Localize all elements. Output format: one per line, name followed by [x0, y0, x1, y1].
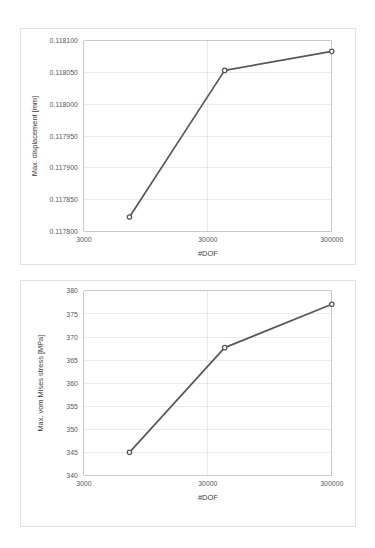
max-von-mises-stress-chart-card: 3403453503553603653703753803000300003000…: [20, 280, 356, 527]
displacement-y-tick-label: 0.117950: [50, 133, 79, 140]
stress-y-tick-label: 360: [66, 380, 78, 387]
displacement-y-tick-label: 0.118050: [50, 69, 79, 76]
stress-y-tick-label: 345: [66, 449, 78, 456]
displacement-x-tick-label: 3000: [76, 236, 92, 243]
stress-y-tick-label: 380: [66, 287, 78, 294]
stress-x-tick-label: 300000: [320, 480, 343, 487]
displacement-data-point: [222, 68, 226, 72]
page-root: 0.1178000.1178500.1179000.1179500.118000…: [0, 0, 375, 548]
displacement-x-tick-label: 30000: [198, 236, 217, 243]
stress-y-tick-label: 350: [66, 426, 78, 433]
stress-data-point: [330, 302, 334, 306]
displacement-y-tick-label: 0.117900: [50, 164, 79, 171]
stress-x-tick-label: 3000: [76, 480, 92, 487]
displacement-series-line: [129, 51, 331, 217]
stress-y-tick-label: 375: [66, 311, 78, 318]
displacement-data-point: [127, 215, 131, 219]
displacement-y-axis-title: Max. displacement [mm]: [30, 96, 39, 176]
displacement-data-point: [330, 49, 334, 53]
stress-y-tick-label: 370: [66, 334, 78, 341]
stress-y-axis-title: Max. vom Mises stress [MPa]: [36, 335, 45, 432]
displacement-y-tick-label: 0.117850: [50, 196, 79, 203]
displacement-y-tick-label: 0.118000: [50, 101, 79, 108]
displacement-x-axis-title: #DOF: [198, 249, 218, 258]
stress-x-tick-label: 30000: [198, 480, 217, 487]
stress-data-point: [222, 345, 226, 349]
stress-y-tick-label: 340: [66, 472, 78, 479]
stress-data-point: [127, 450, 131, 454]
stress-x-axis-title: #DOF: [198, 493, 218, 502]
max-von-mises-stress-chart: 3403453503553603653703753803000300003000…: [21, 281, 355, 526]
displacement-x-tick-label: 300000: [320, 236, 343, 243]
stress-y-tick-label: 355: [66, 403, 78, 410]
displacement-y-tick-label: 0.118100: [50, 37, 79, 44]
stress-series-line: [129, 304, 331, 452]
stress-y-tick-label: 365: [66, 357, 78, 364]
max-displacement-chart-card: 0.1178000.1178500.1179000.1179500.118000…: [20, 28, 356, 265]
displacement-y-tick-label: 0.117800: [50, 228, 79, 235]
max-displacement-chart: 0.1178000.1178500.1179000.1179500.118000…: [21, 29, 355, 264]
